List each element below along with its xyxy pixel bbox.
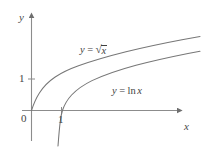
x-axis-label: x (184, 121, 189, 132)
curve-label-sqrt: y = √ x (80, 44, 107, 56)
sqrt-expression: y = √ x (80, 44, 107, 56)
ln-operator: = (117, 86, 128, 97)
curve-sqrt-x (32, 37, 201, 111)
curve-label-ln: y = ln x (112, 86, 142, 97)
sqrt-operator: = (85, 45, 96, 56)
origin-label: 0 (21, 113, 27, 124)
ln-function-name: ln (128, 86, 138, 97)
radical-group: √ x (96, 44, 107, 56)
math-figure: y x 0 1 1 y = √ x y = ln x (0, 0, 204, 153)
y-tick-label-1: 1 (19, 73, 25, 84)
radicand: x (101, 45, 107, 57)
y-axis-label: y (19, 12, 24, 23)
ln-argument: x (137, 86, 142, 97)
x-tick-label-1: 1 (58, 114, 64, 125)
plot-canvas (0, 0, 204, 153)
ln-expression: y = ln x (112, 86, 142, 97)
